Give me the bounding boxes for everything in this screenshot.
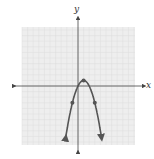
marked-point [70, 101, 74, 105]
parabola-graph [0, 0, 154, 159]
y-axis-label: y [74, 4, 79, 14]
marked-point [93, 101, 97, 105]
x-axis-label: x [146, 80, 151, 90]
marked-point [82, 78, 86, 82]
